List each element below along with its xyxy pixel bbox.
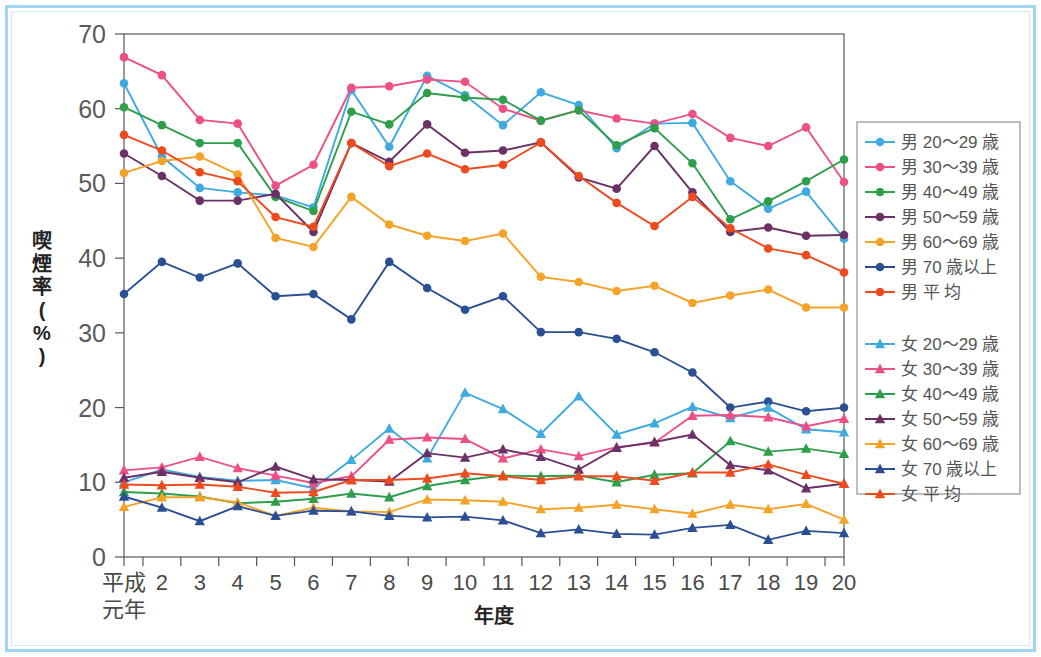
data-point <box>498 444 508 454</box>
data-point <box>309 207 318 216</box>
data-point <box>423 284 432 293</box>
data-point <box>802 123 811 132</box>
data-point <box>158 157 167 166</box>
data-point <box>461 305 470 314</box>
legend-item-label: 男 50～59 歳 <box>901 208 999 227</box>
data-point <box>461 237 470 246</box>
data-point <box>726 134 735 143</box>
y-axis-tick-label: 20 <box>78 394 106 422</box>
series-female <box>119 387 849 492</box>
x-axis-tick-label: 7 <box>345 570 357 595</box>
legend-marker <box>876 213 885 222</box>
data-point <box>158 258 167 267</box>
legend-item-label: 女 60～69 歳 <box>901 435 999 454</box>
data-point <box>688 299 697 308</box>
data-point <box>195 116 204 125</box>
legend-item-label: 男 70 歳以上 <box>901 258 997 277</box>
legend-item-label: 男 平 均 <box>901 283 961 302</box>
series-female <box>119 491 849 544</box>
data-point <box>423 231 432 240</box>
legend-item-label: 男 60～69 歳 <box>901 233 999 252</box>
y-axis-title-char: 率 <box>32 275 52 298</box>
legend-item-label: 男 40～49 歳 <box>901 183 999 202</box>
data-point <box>499 292 508 301</box>
data-point <box>802 187 811 196</box>
x-axis-tick-label: 4 <box>232 570 244 595</box>
legend-item-label: 女 30～39 歳 <box>901 360 999 379</box>
legend-item-label: 男 30～39 歳 <box>901 158 999 177</box>
y-axis-title-char: ( <box>39 299 46 321</box>
data-point <box>840 155 849 164</box>
data-point <box>763 459 773 469</box>
data-point <box>840 268 849 277</box>
chart-page: 010203040506070平成元年234567891011121314151… <box>0 0 1041 657</box>
data-point <box>120 131 129 140</box>
data-point <box>499 229 508 238</box>
data-point <box>120 103 129 112</box>
data-point <box>537 273 546 282</box>
data-point <box>764 142 773 151</box>
y-axis-tick-label: 0 <box>92 543 106 571</box>
data-point <box>650 222 659 231</box>
x-axis-tick-label: 18 <box>756 570 780 595</box>
data-point <box>650 281 659 290</box>
data-point <box>120 149 129 158</box>
data-point <box>650 124 659 133</box>
data-point <box>764 223 773 232</box>
data-point <box>385 143 394 152</box>
data-point <box>385 258 394 267</box>
data-point <box>802 231 811 240</box>
data-point <box>726 224 735 233</box>
data-point <box>347 83 356 92</box>
data-point <box>726 177 735 186</box>
data-point <box>840 303 849 312</box>
data-point <box>537 88 546 97</box>
y-axis-tick-label: 70 <box>78 20 106 48</box>
data-point <box>233 177 242 186</box>
data-point <box>802 407 811 416</box>
data-point <box>423 120 432 129</box>
data-point <box>120 79 129 88</box>
data-point <box>612 287 621 296</box>
data-point <box>270 461 280 471</box>
data-point <box>309 222 318 231</box>
y-axis-tick-label: 60 <box>78 95 106 123</box>
data-point <box>158 146 167 155</box>
x-axis-tick-label: 2 <box>156 570 168 595</box>
data-point <box>271 190 280 199</box>
data-point <box>309 290 318 299</box>
data-point <box>120 169 129 178</box>
legend-marker <box>876 288 885 297</box>
data-point <box>726 215 735 224</box>
data-point <box>499 160 508 169</box>
data-point <box>688 159 697 168</box>
x-axis-tick-label: 17 <box>718 570 742 595</box>
data-point <box>612 141 621 150</box>
x-axis-title: 年度 <box>474 604 515 627</box>
y-axis-title-char: 煙 <box>32 253 52 275</box>
data-point <box>537 328 546 337</box>
data-point <box>461 148 470 157</box>
data-point <box>499 104 508 113</box>
y-axis-title-char: % <box>33 322 51 344</box>
data-point <box>687 429 697 439</box>
data-point <box>233 259 242 268</box>
series-female <box>119 436 849 508</box>
data-point <box>688 368 697 377</box>
x-axis-tick-label: 14 <box>604 570 628 595</box>
data-point <box>574 524 584 534</box>
x-axis-tick-label: 6 <box>307 570 319 595</box>
data-point <box>347 193 356 202</box>
x-axis-tick-label: 3 <box>194 570 206 595</box>
x-axis-tick-label: 10 <box>453 570 477 595</box>
data-point <box>120 290 129 299</box>
data-point <box>802 251 811 260</box>
data-point <box>574 106 583 115</box>
legend-marker <box>876 138 885 147</box>
series-female <box>119 429 849 492</box>
data-point <box>347 107 356 116</box>
data-point <box>385 220 394 229</box>
data-point <box>461 93 470 102</box>
series-male <box>120 89 849 224</box>
data-point <box>840 403 849 412</box>
